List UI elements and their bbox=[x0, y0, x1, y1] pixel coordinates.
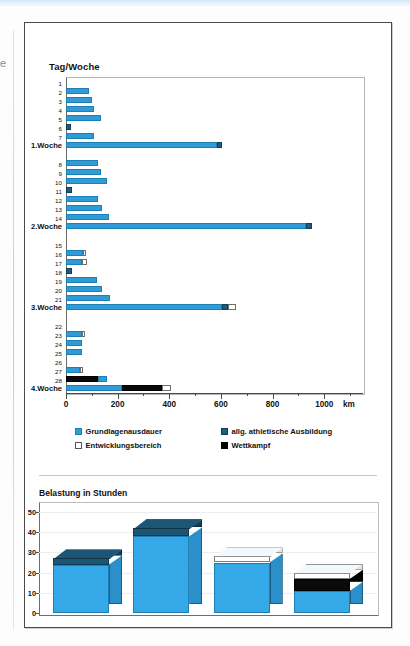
top-chart-bars: 12345671.Woche8910111213142.Woche1516171… bbox=[66, 77, 363, 393]
day-bar-row: 16 bbox=[66, 250, 363, 256]
bar-segment-entwicklungsbereich bbox=[162, 385, 171, 391]
day-label: 5 bbox=[59, 115, 62, 124]
x-tick-major bbox=[324, 393, 325, 399]
bar-segment-entwicklungsbereich bbox=[82, 331, 85, 337]
page-top-band bbox=[0, 0, 410, 7]
bar-segment-grundlagenausdauer bbox=[66, 196, 98, 202]
y-tick-label: 40 bbox=[28, 528, 36, 537]
figure-container: Tag/Woche 12345671.Woche8910111213142.Wo… bbox=[24, 22, 392, 628]
legend-label-wettkampf: Wettkampf bbox=[232, 441, 271, 450]
bar-segment-entwicklungsbereich bbox=[82, 259, 87, 265]
week-label: 1.Woche bbox=[31, 141, 62, 151]
day-bar-row: 8 bbox=[66, 160, 363, 166]
legend-item-wettkampf: Wettkampf bbox=[221, 441, 270, 450]
bar-segment-wettkampf bbox=[66, 376, 98, 382]
y-tick-label: 30 bbox=[28, 548, 36, 557]
x-tick-minor bbox=[92, 393, 93, 396]
x-tick-major bbox=[66, 393, 67, 399]
day-label: 11 bbox=[56, 187, 62, 196]
day-bar-row: 26 bbox=[66, 358, 363, 364]
day-bar-row: 7 bbox=[66, 133, 363, 139]
training-km-chart: Tag/Woche 12345671.Woche8910111213142.Wo… bbox=[25, 23, 391, 433]
y-tick-label: 50 bbox=[28, 508, 36, 517]
bar3d-side-grundlagenausdauer bbox=[189, 527, 202, 604]
bar-segment-athletik bbox=[66, 187, 72, 193]
bar-segment-grundlagenausdauer bbox=[66, 97, 92, 103]
x-tick-minor bbox=[247, 393, 248, 396]
bar3d-front-grundlagenausdauer bbox=[294, 591, 350, 613]
day-bar-row: 23 bbox=[66, 331, 363, 337]
day-label: 17 bbox=[55, 259, 62, 268]
bar3d-side-grundlagenausdauer bbox=[270, 554, 283, 605]
bar-segment-grundlagenausdauer bbox=[66, 115, 101, 121]
bar-segment-grundlagenausdauer bbox=[66, 178, 107, 184]
top-chart-title: Tag/Woche bbox=[49, 61, 100, 72]
bar-segment-grundlagenausdauer bbox=[66, 160, 98, 166]
day-bar-row: 22 bbox=[66, 322, 363, 328]
day-label: 15 bbox=[55, 241, 62, 250]
day-label: 1 bbox=[59, 79, 62, 88]
bar-segment-grundlagenausdauer bbox=[66, 106, 94, 112]
day-bar-row: 10 bbox=[66, 178, 363, 184]
bar-segment-grundlagenausdauer bbox=[66, 385, 122, 391]
day-bar-row: 18 bbox=[66, 268, 363, 274]
y-tick bbox=[36, 573, 40, 574]
bar-segment-athletik bbox=[66, 124, 71, 130]
week-total-bar-row: 3.Woche bbox=[66, 304, 363, 310]
bar-segment-grundlagenausdauer bbox=[66, 88, 89, 94]
bar-segment-grundlagenausdauer bbox=[66, 259, 82, 265]
day-label: 24 bbox=[55, 340, 62, 349]
day-label: 3 bbox=[59, 97, 62, 106]
day-bar-row: 1 bbox=[66, 79, 363, 85]
x-axis-unit-label: km bbox=[343, 400, 355, 409]
bar-segment-grundlagenausdauer bbox=[66, 142, 217, 148]
day-bar-row: 24 bbox=[66, 340, 363, 346]
day-label: 13 bbox=[55, 205, 62, 214]
bar-segment-entwicklungsbereich bbox=[80, 367, 83, 373]
bar3d-top-allg. bbox=[133, 519, 202, 529]
day-label: 26 bbox=[55, 358, 62, 367]
day-bar-row: 20 bbox=[66, 286, 363, 292]
bar3d-top-allg. bbox=[53, 549, 122, 559]
day-label: 16 bbox=[55, 250, 62, 259]
day-bar-row: 19 bbox=[66, 277, 363, 283]
day-label: 27 bbox=[55, 367, 62, 376]
bar-segment-grundlagenausdauer bbox=[66, 367, 80, 373]
day-label: 23 bbox=[55, 331, 62, 340]
bar-segment-grundlagenausdauer bbox=[66, 250, 83, 256]
day-bar-row: 11 bbox=[66, 187, 363, 193]
bar-segment-entwicklungsbereich bbox=[83, 250, 86, 256]
legend-swatch-grundlagenausdauer bbox=[75, 428, 82, 435]
bottom-chart-plot-area: 01020304050 bbox=[39, 502, 377, 614]
bar3d-front-allg. bbox=[133, 528, 189, 536]
day-label: 18 bbox=[55, 268, 62, 277]
bar-segment-grundlagenausdauer bbox=[66, 169, 101, 175]
y-tick bbox=[36, 613, 40, 614]
x-tick-major bbox=[118, 393, 119, 399]
legend-item-grundlagenausdauer: Grundlagenausdauer bbox=[75, 427, 162, 436]
day-label: 10 bbox=[55, 178, 62, 187]
day-label: 12 bbox=[55, 196, 62, 205]
load-hours-chart: Belastung in Stunden 01020304050 bbox=[25, 475, 391, 627]
top-chart-x-axis bbox=[66, 393, 363, 394]
bar-segment-grundlagenausdauer bbox=[66, 304, 222, 310]
x-tick-label: 0 bbox=[64, 400, 69, 409]
x-tick-minor bbox=[298, 393, 299, 396]
day-bar-row: 17 bbox=[66, 259, 363, 265]
y-tick-label: 10 bbox=[28, 588, 36, 597]
legend-label-athletik: allg. athletische Ausbildung bbox=[232, 427, 333, 436]
bar-segment-grundlagenausdauer bbox=[66, 205, 102, 211]
y-tick bbox=[36, 532, 40, 533]
day-bar-row: 5 bbox=[66, 115, 363, 121]
day-bar-row: 9 bbox=[66, 169, 363, 175]
bar-segment-grundlagenausdauer bbox=[66, 223, 306, 229]
bar-segment-glaafter_wettkampf bbox=[98, 376, 107, 382]
bar-segment-grundlagenausdauer bbox=[66, 286, 102, 292]
bar-segment-grundlagenausdauer bbox=[66, 133, 94, 139]
x-tick-label: 400 bbox=[162, 400, 176, 409]
day-label: 25 bbox=[55, 349, 62, 358]
x-tick-label: 1000 bbox=[315, 400, 333, 409]
x-tick-major bbox=[169, 393, 170, 399]
legend-item-entwicklungsbereich: Entwicklungsbereich bbox=[75, 441, 161, 450]
legend-swatch-entwicklungsbereich bbox=[75, 442, 82, 449]
